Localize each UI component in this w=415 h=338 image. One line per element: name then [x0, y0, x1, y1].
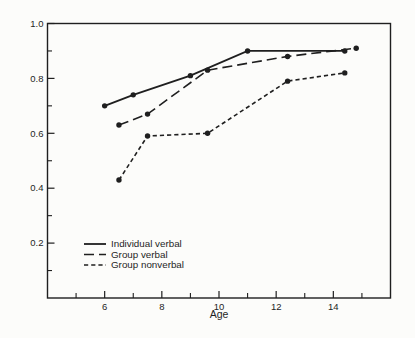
data-point-group-verbal — [145, 111, 150, 116]
data-point-group-verbal — [354, 46, 359, 51]
data-point-group-verbal — [116, 122, 121, 127]
data-point-group-nonverbal — [116, 177, 121, 182]
x-tick-label: 6 — [102, 301, 107, 312]
data-point-group-nonverbal — [342, 70, 347, 75]
data-point-group-verbal — [205, 67, 210, 72]
series-line-individual-verbal — [105, 51, 345, 106]
x-tick-label: 12 — [271, 301, 282, 312]
series-line-group-verbal — [119, 48, 356, 125]
y-tick-label: 0.8 — [30, 73, 43, 84]
plot-frame — [48, 24, 391, 299]
data-point-group-nonverbal — [285, 78, 290, 83]
legend-label-group-verbal: Group verbal — [111, 249, 168, 260]
line-chart: 681012140.20.40.60.81.0Individual verbal… — [0, 0, 415, 338]
page: { "figure": { "background": "#fcfcfa", "… — [0, 0, 415, 338]
y-tick-label: 0.4 — [30, 182, 43, 193]
x-axis-title: Age — [210, 308, 229, 320]
legend-label-group-nonverbal: Group nonverbal — [111, 259, 184, 270]
data-point-group-verbal — [285, 54, 290, 59]
data-point-individual-verbal — [188, 73, 193, 78]
legend-label-individual-verbal: Individual verbal — [111, 238, 182, 249]
y-tick-label: 0.2 — [30, 237, 43, 248]
data-point-individual-verbal — [245, 48, 250, 53]
data-point-individual-verbal — [131, 92, 136, 97]
y-tick-label: 1.0 — [30, 18, 43, 29]
data-point-individual-verbal — [102, 103, 107, 108]
reliability-by-age-figure: 681012140.20.40.60.81.0Individual verbal… — [0, 0, 415, 338]
data-point-group-nonverbal — [145, 133, 150, 138]
data-point-group-nonverbal — [205, 131, 210, 136]
x-tick-label: 14 — [328, 301, 339, 312]
x-tick-label: 8 — [159, 301, 164, 312]
y-tick-label: 0.6 — [30, 128, 43, 139]
